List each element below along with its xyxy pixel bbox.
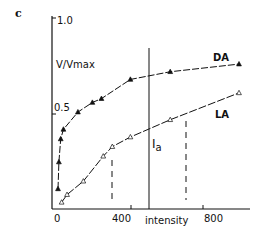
filled-triangle-marker-icon (57, 159, 62, 163)
series-label-da: DA (213, 52, 229, 63)
series-label-la: LA (215, 109, 229, 120)
panel-label: c (15, 7, 22, 20)
chart: c 1.0 0.5 V/Vmax 0 400 800 intensity DA … (0, 0, 260, 235)
x-tick-label-800: 800 (204, 213, 223, 224)
y-axis-title: V/Vmax (56, 59, 95, 70)
x-tick-label-400: 400 (112, 213, 131, 224)
x-tick-label-0: 0 (54, 213, 60, 224)
filled-triangle-marker-icon (237, 61, 242, 65)
filled-triangle-marker-icon (76, 109, 81, 113)
filled-triangle-marker-icon (61, 127, 66, 131)
y-tick-label-05: 0.5 (54, 102, 70, 113)
y-tick-label-1: 1.0 (57, 15, 73, 26)
ia-label: Ia (152, 137, 162, 153)
x-axis-title: intensity (145, 215, 188, 226)
open-triangle-marker-icon (237, 90, 242, 94)
filled-triangle-marker-icon (99, 96, 104, 100)
series-la (59, 90, 241, 204)
filled-triangle-marker-icon (56, 186, 61, 190)
ia-label-sub: a (156, 142, 162, 153)
filled-triangle-marker-icon (58, 136, 63, 140)
